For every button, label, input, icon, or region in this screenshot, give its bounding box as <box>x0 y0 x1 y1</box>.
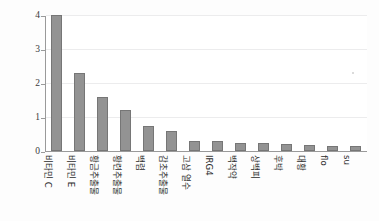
x-label-slot: 비타민 C <box>45 153 68 221</box>
bar <box>304 145 315 151</box>
x-axis-labels: 비타민 C비타민 E황금추출물황련추출물백렴감초추출물고삼 열수IRG4백작약상… <box>45 153 367 221</box>
chart-figure: Absorbance at 700nm 01234 비타민 C비타민 E황금추출… <box>0 0 379 221</box>
bar <box>327 146 338 151</box>
bar <box>143 126 154 152</box>
x-tick-label: 대황 <box>296 155 305 171</box>
bar-slot <box>252 16 275 151</box>
bar <box>120 110 131 151</box>
x-tick-label: 비타민 C <box>43 155 52 188</box>
x-tick-label: 후박 <box>273 155 282 171</box>
bar <box>235 143 246 152</box>
x-label-slot: 비타민 E <box>68 153 91 221</box>
x-label-slot: 황금추출물 <box>91 153 114 221</box>
x-label-slot: flo <box>321 153 344 221</box>
x-tick-label: 상백피 <box>250 155 259 179</box>
bar-slot <box>298 16 321 151</box>
bar-slot <box>344 16 367 151</box>
bar <box>166 131 177 151</box>
y-tick-label: 1 <box>0 112 40 122</box>
x-tick-label: 황련추출물 <box>112 155 121 195</box>
bar <box>212 141 223 151</box>
bar-series <box>45 16 367 151</box>
bar-slot <box>206 16 229 151</box>
y-tick-label: 2 <box>0 78 40 88</box>
x-label-slot: 대황 <box>298 153 321 221</box>
bar-slot <box>321 16 344 151</box>
x-label-slot: 백렴 <box>137 153 160 221</box>
bar <box>281 144 292 151</box>
x-tick-label: flo <box>319 155 328 166</box>
bar <box>74 73 85 151</box>
bar <box>51 15 62 151</box>
bar <box>97 97 108 151</box>
x-tick-label: su <box>342 155 351 165</box>
bar <box>350 146 361 151</box>
y-tick-label: 3 <box>0 44 40 54</box>
bar-slot <box>229 16 252 151</box>
y-tick-label: 4 <box>0 10 40 20</box>
x-tick-label: 백렴 <box>135 155 144 171</box>
bar-slot <box>183 16 206 151</box>
scan-speck <box>352 72 354 74</box>
bar-slot <box>68 16 91 151</box>
x-tick-label: 비타민 E <box>66 155 75 187</box>
x-label-slot: 고삼 열수 <box>183 153 206 221</box>
bar-slot <box>91 16 114 151</box>
x-label-slot: 상백피 <box>252 153 275 221</box>
bar-slot <box>160 16 183 151</box>
y-tick-label: 0 <box>0 146 40 156</box>
bar <box>258 143 269 151</box>
bar-slot <box>275 16 298 151</box>
bar-slot <box>45 16 68 151</box>
bar-slot <box>114 16 137 151</box>
bar-slot <box>137 16 160 151</box>
x-tick-label: IRG4 <box>204 155 213 176</box>
x-tick-label: 고삼 열수 <box>181 155 190 190</box>
bar <box>189 141 200 151</box>
x-label-slot: 후박 <box>275 153 298 221</box>
x-label-slot: 황련추출물 <box>114 153 137 221</box>
x-tick-label: 백작약 <box>227 155 236 179</box>
x-tick-label: 황금추출물 <box>89 155 98 195</box>
x-label-slot: su <box>344 153 367 221</box>
x-tick-label: 감초추출물 <box>158 155 167 195</box>
x-label-slot: IRG4 <box>206 153 229 221</box>
x-label-slot: 백작약 <box>229 153 252 221</box>
x-label-slot: 감초추출물 <box>160 153 183 221</box>
